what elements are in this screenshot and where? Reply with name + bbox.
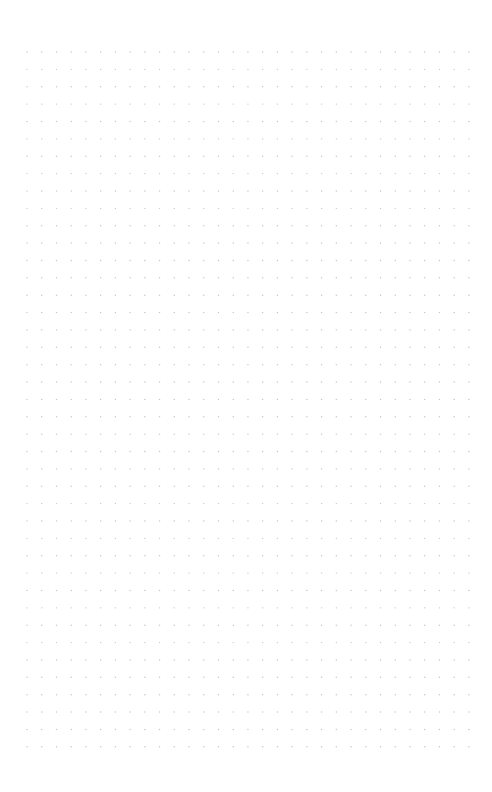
grid-dot bbox=[144, 746, 145, 747]
grid-dot bbox=[188, 607, 189, 608]
grid-dot bbox=[26, 625, 27, 626]
grid-dot bbox=[336, 103, 337, 104]
grid-dot bbox=[115, 381, 116, 382]
grid-dot bbox=[424, 416, 425, 417]
grid-dot bbox=[41, 260, 42, 261]
grid-dot bbox=[115, 416, 116, 417]
grid-dot bbox=[203, 538, 204, 539]
grid-dot bbox=[233, 729, 234, 730]
grid-dot bbox=[26, 607, 27, 608]
grid-dot bbox=[188, 555, 189, 556]
grid-dot bbox=[424, 677, 425, 678]
grid-dot bbox=[159, 242, 160, 243]
grid-dot bbox=[144, 381, 145, 382]
grid-dot bbox=[41, 51, 42, 52]
grid-dot bbox=[350, 555, 351, 556]
grid-dot bbox=[188, 642, 189, 643]
grid-dot bbox=[70, 86, 71, 87]
grid-dot bbox=[395, 503, 396, 504]
grid-dot bbox=[291, 625, 292, 626]
grid-dot bbox=[233, 347, 234, 348]
grid-dot bbox=[321, 538, 322, 539]
grid-dot bbox=[439, 625, 440, 626]
grid-dot bbox=[424, 347, 425, 348]
grid-dot bbox=[277, 277, 278, 278]
grid-dot bbox=[453, 260, 454, 261]
grid-dot bbox=[277, 486, 278, 487]
grid-dot bbox=[188, 538, 189, 539]
grid-dot bbox=[85, 694, 86, 695]
grid-dot bbox=[365, 694, 366, 695]
grid-dot bbox=[159, 364, 160, 365]
grid-dot bbox=[203, 121, 204, 122]
grid-dot bbox=[365, 416, 366, 417]
grid-dot bbox=[365, 225, 366, 226]
grid-dot bbox=[100, 433, 101, 434]
grid-dot bbox=[203, 138, 204, 139]
grid-dot bbox=[56, 156, 57, 157]
grid-dot bbox=[26, 294, 27, 295]
grid-dot bbox=[262, 729, 263, 730]
grid-dot bbox=[203, 607, 204, 608]
grid-dot bbox=[203, 711, 204, 712]
grid-dot bbox=[174, 468, 175, 469]
grid-dot bbox=[56, 312, 57, 313]
grid-dot bbox=[144, 69, 145, 70]
grid-dot bbox=[100, 277, 101, 278]
grid-dot bbox=[203, 190, 204, 191]
grid-dot bbox=[424, 51, 425, 52]
grid-dot bbox=[70, 486, 71, 487]
grid-dot bbox=[85, 329, 86, 330]
grid-dot bbox=[203, 746, 204, 747]
grid-dot bbox=[100, 381, 101, 382]
grid-dot bbox=[203, 468, 204, 469]
grid-dot bbox=[115, 294, 116, 295]
grid-dot bbox=[188, 69, 189, 70]
grid-dot bbox=[350, 607, 351, 608]
grid-dot bbox=[115, 694, 116, 695]
grid-dot bbox=[321, 312, 322, 313]
grid-dot bbox=[439, 572, 440, 573]
grid-dot bbox=[424, 625, 425, 626]
grid-dot bbox=[424, 468, 425, 469]
grid-dot bbox=[144, 260, 145, 261]
grid-dot bbox=[468, 381, 469, 382]
grid-dot bbox=[247, 572, 248, 573]
grid-dot bbox=[144, 711, 145, 712]
grid-dot bbox=[262, 555, 263, 556]
grid-dot bbox=[262, 312, 263, 313]
grid-dot bbox=[380, 468, 381, 469]
grid-dot bbox=[439, 607, 440, 608]
grid-dot bbox=[174, 590, 175, 591]
grid-dot bbox=[70, 746, 71, 747]
grid-dot bbox=[380, 69, 381, 70]
grid-dot bbox=[188, 138, 189, 139]
grid-dot bbox=[218, 468, 219, 469]
grid-dot bbox=[247, 729, 248, 730]
grid-dot bbox=[85, 138, 86, 139]
grid-dot bbox=[306, 294, 307, 295]
grid-dot bbox=[85, 486, 86, 487]
grid-dot bbox=[468, 572, 469, 573]
grid-dot bbox=[188, 347, 189, 348]
grid-dot bbox=[453, 694, 454, 695]
grid-dot bbox=[439, 121, 440, 122]
grid-dot bbox=[291, 659, 292, 660]
grid-dot bbox=[70, 677, 71, 678]
grid-dot bbox=[174, 190, 175, 191]
grid-dot bbox=[277, 190, 278, 191]
grid-dot bbox=[41, 173, 42, 174]
grid-dot bbox=[291, 173, 292, 174]
grid-dot bbox=[306, 590, 307, 591]
grid-dot bbox=[350, 625, 351, 626]
grid-dot bbox=[395, 51, 396, 52]
grid-dot bbox=[203, 225, 204, 226]
grid-dot bbox=[56, 69, 57, 70]
grid-dot bbox=[424, 590, 425, 591]
grid-dot bbox=[395, 538, 396, 539]
grid-dot bbox=[291, 572, 292, 573]
grid-dot bbox=[365, 659, 366, 660]
grid-dot bbox=[174, 225, 175, 226]
grid-dot bbox=[233, 329, 234, 330]
grid-dot bbox=[439, 711, 440, 712]
